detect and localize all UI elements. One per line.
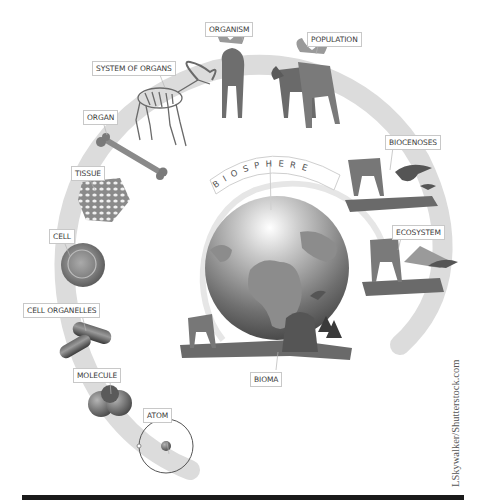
label-organism: ORGANISM [205, 22, 253, 37]
label-molecule: MOLECULE [73, 368, 121, 383]
label-organ: ORGAN [83, 110, 118, 125]
image-credit: LSkywalker/Shutterstock.com [450, 360, 461, 487]
label-cell-organelles: CELL ORGANELLES [23, 303, 100, 318]
globe-illustration [205, 196, 349, 340]
organ-illustration [96, 133, 168, 180]
label-atom: ATOM [143, 408, 172, 423]
label-population: POPULATION [307, 32, 362, 47]
label-cell: CELL [49, 229, 75, 244]
label-system-of-organs: SYSTEM OF ORGANS [92, 61, 176, 76]
population-illustration [271, 38, 340, 128]
label-tissue: TISSUE [71, 166, 105, 181]
label-bioma: BIOMA [250, 372, 282, 387]
bottom-rule [22, 495, 464, 500]
label-ecosystem: ECOSYSTEM [392, 225, 445, 240]
label-biocenoses: BIOCENOSES [385, 135, 441, 150]
tissue-illustration [78, 178, 130, 222]
biocenoses-illustration [345, 158, 438, 212]
biosphere-diagram: BIOSPHERE [0, 0, 486, 500]
